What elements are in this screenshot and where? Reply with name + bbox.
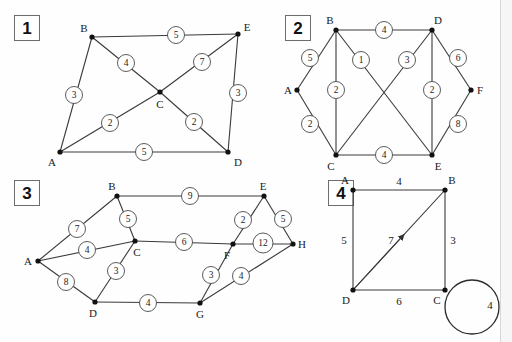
edge-weight-AC: 4	[85, 245, 90, 255]
node-label-D: D	[342, 294, 350, 306]
node-B	[89, 34, 94, 39]
edge-weight-EH: 5	[281, 214, 286, 224]
edge-weight-AB: 4	[396, 175, 402, 187]
node-label-A: A	[24, 255, 32, 267]
node-label-C: C	[156, 98, 163, 110]
edge-weight-AB: 5	[308, 53, 313, 63]
edge-weight-FH: 12	[258, 238, 268, 248]
node-C	[442, 287, 447, 292]
node-A	[57, 149, 62, 154]
node-label-B: B	[326, 14, 333, 26]
node-F	[230, 241, 235, 246]
edges-layer	[38, 30, 471, 303]
edge-weight-CE: 7	[200, 57, 205, 67]
edge-weight-BC: 3	[450, 234, 456, 246]
node-label-C: C	[433, 294, 440, 306]
edge-weight-EF: 2	[241, 215, 246, 225]
node-B	[114, 193, 119, 198]
edge-weight-DG: 4	[146, 298, 151, 308]
edge-weight-DC: 6	[396, 295, 402, 307]
node-label-B: B	[80, 22, 87, 34]
node-D	[92, 299, 97, 304]
node-label-D: D	[434, 14, 442, 26]
edge-weight-DB: 7	[388, 234, 394, 246]
edge-weight-BC: 4	[124, 58, 129, 68]
edge-weight-CE: 4	[382, 150, 387, 160]
node-label-A: A	[341, 174, 349, 186]
node-A	[35, 258, 40, 263]
edge-weight-BE: 9	[188, 191, 193, 201]
edge-weight-CD: 3	[114, 266, 119, 276]
node-H	[290, 241, 295, 246]
edge-weight-AD: 5	[341, 234, 347, 246]
edge-weight-DF: 6	[456, 53, 461, 63]
edge-weight-EF: 8	[456, 119, 461, 129]
edge-weight-GH: 4	[239, 271, 244, 281]
node-A	[350, 187, 355, 192]
node-label-A: A	[48, 156, 56, 168]
node-label-F: F	[224, 249, 230, 261]
node-C	[132, 238, 137, 243]
node-label-H: H	[298, 238, 306, 250]
node-E	[235, 31, 240, 36]
node-label-B: B	[108, 180, 115, 192]
edge-weight-AB: 3	[72, 90, 77, 100]
edge-weight-BC: 5	[126, 214, 131, 224]
node-C	[333, 152, 338, 157]
node-E	[429, 152, 434, 157]
edge-weight-DE: 2	[430, 85, 435, 95]
edge-weight-CD: 3	[405, 55, 410, 65]
node-label-C: C	[133, 246, 140, 258]
node-C	[157, 89, 162, 94]
node-label-C: C	[327, 160, 334, 172]
edge-weight-BE: 1	[359, 55, 364, 65]
edge-DB-line	[353, 190, 445, 290]
edge-weight-AB: 7	[75, 224, 80, 234]
edge-weight-AD: 8	[64, 277, 69, 287]
node-B	[333, 27, 338, 32]
node-D	[350, 287, 355, 292]
node-label-E: E	[244, 21, 251, 33]
graph-canvas: ABCDEABCDEFABCDEFGHABCD 5342725345221326…	[0, 0, 512, 342]
node-label-B: B	[448, 174, 455, 186]
edge-BE	[92, 34, 238, 37]
node-B	[442, 187, 447, 192]
node-label-E: E	[260, 180, 267, 192]
page-right-margin	[501, 0, 512, 342]
node-F	[468, 87, 473, 92]
figure-page: 1 2 3 4 ABCDEABCDEFABCDEFGHABCD 53427253…	[0, 0, 512, 342]
edge-weight-CF: 6	[182, 237, 187, 247]
edge-weight-BE: 5	[174, 30, 179, 40]
node-label-E: E	[435, 160, 442, 172]
node-D	[225, 149, 230, 154]
node-D	[429, 27, 434, 32]
node-label-G: G	[196, 308, 204, 320]
node-A	[294, 87, 299, 92]
edge-weight-DE: 3	[236, 88, 241, 98]
edge-weights-layer: 53427253452213268497548364251234445367	[58, 22, 494, 312]
edge-weight-BC: 2	[334, 85, 339, 95]
edge-weight-AC: 2	[108, 118, 113, 128]
node-label-D: D	[234, 156, 242, 168]
node-label-F: F	[477, 84, 483, 96]
edge-weight-BD: 4	[382, 25, 387, 35]
node-label-A: A	[284, 84, 292, 96]
self-loop-weight-C: 4	[487, 299, 493, 311]
node-E	[261, 193, 266, 198]
edge-weight-CD: 2	[192, 117, 197, 127]
edge-weight-AC: 2	[308, 119, 313, 129]
node-label-D: D	[89, 307, 97, 319]
node-G	[197, 300, 202, 305]
edge-weight-AD: 5	[142, 147, 147, 157]
edge-weight-FG: 3	[209, 270, 214, 280]
